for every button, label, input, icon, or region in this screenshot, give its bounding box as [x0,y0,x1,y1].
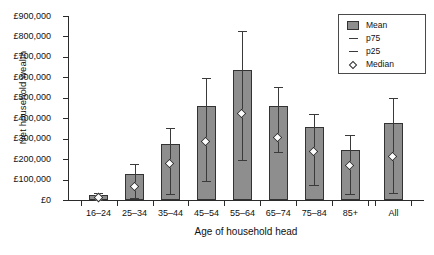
figure-caption-cutoff [0,249,434,255]
x-axis-title: Age of household head [68,226,424,237]
dash-icon [344,38,362,39]
y-axis-tick-label: £200,000 [0,155,51,164]
whisker-line [206,78,207,180]
legend-item-mean: Mean [344,19,420,32]
y-axis-tick-label: £0 [0,196,51,205]
x-axis-tick [81,201,82,206]
legend-item-median: Median [344,58,420,71]
y-axis-tick-label: £100,000 [0,175,51,184]
legend-item-p25: p25 [344,45,420,58]
x-axis-tick [411,201,412,206]
y-axis-tick [63,16,68,17]
whisker-cap-upper [238,31,248,32]
x-axis-tick [153,201,154,206]
whisker-cap-upper [309,114,319,115]
y-axis-tick [63,159,68,160]
x-axis-tick [260,201,261,206]
y-axis-tick-label: £900,000 [0,12,51,21]
y-axis-tick [63,118,68,119]
legend-label: Mean [362,21,387,30]
x-axis-tick [188,201,189,206]
wealth-by-age-figure: Net household wealth £0£100,000£200,000£… [0,0,434,255]
x-axis-tick [375,201,376,206]
y-axis-tick [63,57,68,58]
whisker-cap-lower [202,181,212,182]
whisker-line [242,31,243,160]
whisker-line [278,87,279,152]
whisker-cap-lower [389,193,399,194]
whisker-cap-upper [345,135,355,136]
y-axis-tick [63,36,68,37]
whisker-cap-lower [345,194,355,195]
whisker-cap-upper [130,164,140,165]
chart-legend: Mean p75 p25 Median [338,14,426,74]
x-axis-tick [368,201,369,206]
y-axis-tick [63,200,68,201]
legend-label: Median [362,60,394,69]
whisker-cap-upper [166,128,176,129]
y-axis-tick [63,77,68,78]
y-axis-tick-label: £600,000 [0,73,51,82]
legend-label: p25 [362,47,380,56]
whisker-cap-lower [238,160,248,161]
y-axis-tick [63,139,68,140]
whisker-cap-upper [274,87,284,88]
x-axis-tick [332,201,333,206]
x-axis-tick [224,201,225,206]
whisker-cap-lower [274,152,284,153]
y-axis-tick-label: £400,000 [0,114,51,123]
whisker-cap-upper [389,98,399,99]
x-axis-tick [117,201,118,206]
legend-label: p75 [362,34,380,43]
x-axis-tick [296,201,297,206]
whisker-cap-lower [130,198,140,199]
whisker-line [393,98,394,193]
y-axis-tick [63,180,68,181]
mean-swatch-icon [344,21,362,30]
y-axis-tick [63,98,68,99]
whisker-cap-lower [309,185,319,186]
y-axis-line [68,16,69,201]
x-axis-tick-label: All [363,208,423,218]
legend-item-p75: p75 [344,32,420,45]
diamond-icon [344,62,362,68]
y-axis-tick-label: £500,000 [0,93,51,102]
y-axis-tick-label: £700,000 [0,52,51,61]
y-axis-tick-label: £300,000 [0,134,51,143]
y-axis-tick-label: £800,000 [0,32,51,41]
dash-icon [344,51,362,52]
whisker-cap-lower [166,194,176,195]
whisker-cap-upper [202,78,212,79]
x-axis-line [68,200,424,201]
